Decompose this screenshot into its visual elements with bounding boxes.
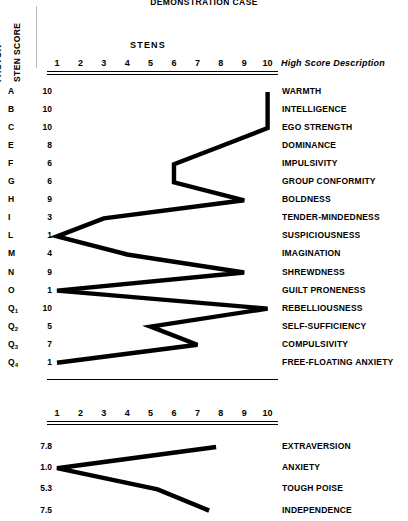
sten-tick-7: 7 [187, 408, 207, 418]
sten-score-axis-label: STEN SCORE [12, 23, 22, 82]
sten-tick-5: 5 [141, 408, 161, 418]
factor-description: IMAGINATION [282, 248, 341, 258]
factor-code: Q3 [8, 339, 30, 349]
factor-sten-score: 1 [30, 230, 52, 240]
factor-description: COMPULSIVITY [282, 339, 348, 349]
sten-scale-ticks-top: 12345678910 [0, 58, 408, 70]
factor-sten-score: 4 [30, 248, 52, 258]
factor-sten-score: 1 [30, 285, 52, 295]
secondary-factor-score: 1.0 [22, 462, 52, 472]
factor-sten-score: 10 [30, 86, 52, 96]
factor-sten-score: 9 [30, 267, 52, 277]
secondary-factor-description: TOUGH POISE [282, 483, 343, 493]
sten-tick-6: 6 [164, 58, 184, 68]
factor-sten-score: 5 [30, 321, 52, 331]
sten-tick-7: 7 [187, 58, 207, 68]
secondary-factor-description: INDEPENDENCE [282, 505, 352, 515]
stens-caption: STENS [130, 40, 166, 50]
sten-tick-5: 5 [141, 58, 161, 68]
factor-code: A [8, 86, 30, 96]
sten-tick-9: 9 [234, 58, 254, 68]
factor-code: G [8, 176, 30, 186]
secondary-factor-score: 7.8 [22, 441, 52, 451]
factor-description: DOMINANCE [282, 140, 336, 150]
scale-rule-bottom [47, 421, 278, 425]
factor-sten-score: 3 [30, 212, 52, 222]
factor-sten-score: 10 [30, 122, 52, 132]
sten-tick-3: 3 [94, 408, 114, 418]
factor-description: WARMTH [282, 86, 321, 96]
primary-profile-line [57, 92, 268, 363]
secondary-factor-score: 7.5 [22, 505, 52, 515]
secondary-profile-line [57, 447, 216, 511]
factor-sten-score: 10 [30, 303, 52, 313]
secondary-factor-description: EXTRAVERSION [282, 441, 351, 451]
factor-description: TENDER-MINDEDNESS [282, 212, 380, 222]
factor-sten-score: 10 [30, 104, 52, 114]
sten-tick-10: 10 [258, 58, 278, 68]
factor-code: Q1 [8, 303, 30, 313]
sten-tick-4: 4 [117, 408, 137, 418]
sten-tick-4: 4 [117, 58, 137, 68]
factor-description: GUILT PRONENESS [282, 285, 366, 295]
sten-tick-8: 8 [211, 408, 231, 418]
secondary-factor-score: 5.3 [22, 483, 52, 493]
factor-code: B [8, 104, 30, 114]
factor-code: F [8, 158, 30, 168]
factor-code: C [8, 122, 30, 132]
factor-sten-score: 8 [30, 140, 52, 150]
factor-description: EGO STRENGTH [282, 122, 352, 132]
factor-description: GROUP CONFORMITY [282, 176, 376, 186]
factor-description: SUSPICIOUSNESS [282, 230, 360, 240]
factor-sten-score: 7 [30, 339, 52, 349]
scale-rule-top [47, 71, 278, 75]
page-title: DEMONSTRATION CASE [0, 0, 408, 7]
factor-code: I [8, 212, 30, 222]
factor-description: INTELLIGENCE [282, 104, 347, 114]
sten-tick-6: 6 [164, 408, 184, 418]
factor-code: L [8, 230, 30, 240]
sten-tick-1: 1 [47, 58, 67, 68]
sten-tick-3: 3 [94, 58, 114, 68]
profile-sheet: DEMONSTRATION CASE FACTOR STEN SCORE STE… [0, 0, 408, 521]
factor-sten-score: 1 [30, 357, 52, 367]
factor-description: FREE-FLOATING ANXIETY [282, 357, 393, 367]
factor-description: SELF-SUFFICIENCY [282, 321, 366, 331]
factor-sten-score: 9 [30, 194, 52, 204]
sten-tick-1: 1 [47, 408, 67, 418]
factor-description: REBELLIOUSNESS [282, 303, 363, 313]
factor-code: N [8, 267, 30, 277]
primary-section-bottom-rule [47, 379, 278, 380]
factor-description: BOLDNESS [282, 194, 331, 204]
factor-code: E [8, 140, 30, 150]
factor-description: SHREWDNESS [282, 267, 345, 277]
factor-code: Q2 [8, 321, 30, 331]
sten-tick-9: 9 [234, 408, 254, 418]
secondary-factor-description: ANXIETY [282, 462, 320, 472]
factor-code: O [8, 285, 30, 295]
factor-code: H [8, 194, 30, 204]
sten-tick-2: 2 [70, 408, 90, 418]
sten-scale-ticks-bottom: 12345678910 [0, 408, 408, 420]
sten-tick-10: 10 [258, 408, 278, 418]
sten-tick-8: 8 [211, 58, 231, 68]
sten-tick-2: 2 [70, 58, 90, 68]
factor-code: M [8, 248, 30, 258]
factor-sten-score: 6 [30, 158, 52, 168]
factor-sten-score: 6 [30, 176, 52, 186]
factor-description: IMPULSIVITY [282, 158, 338, 168]
factor-code: Q4 [8, 357, 30, 367]
